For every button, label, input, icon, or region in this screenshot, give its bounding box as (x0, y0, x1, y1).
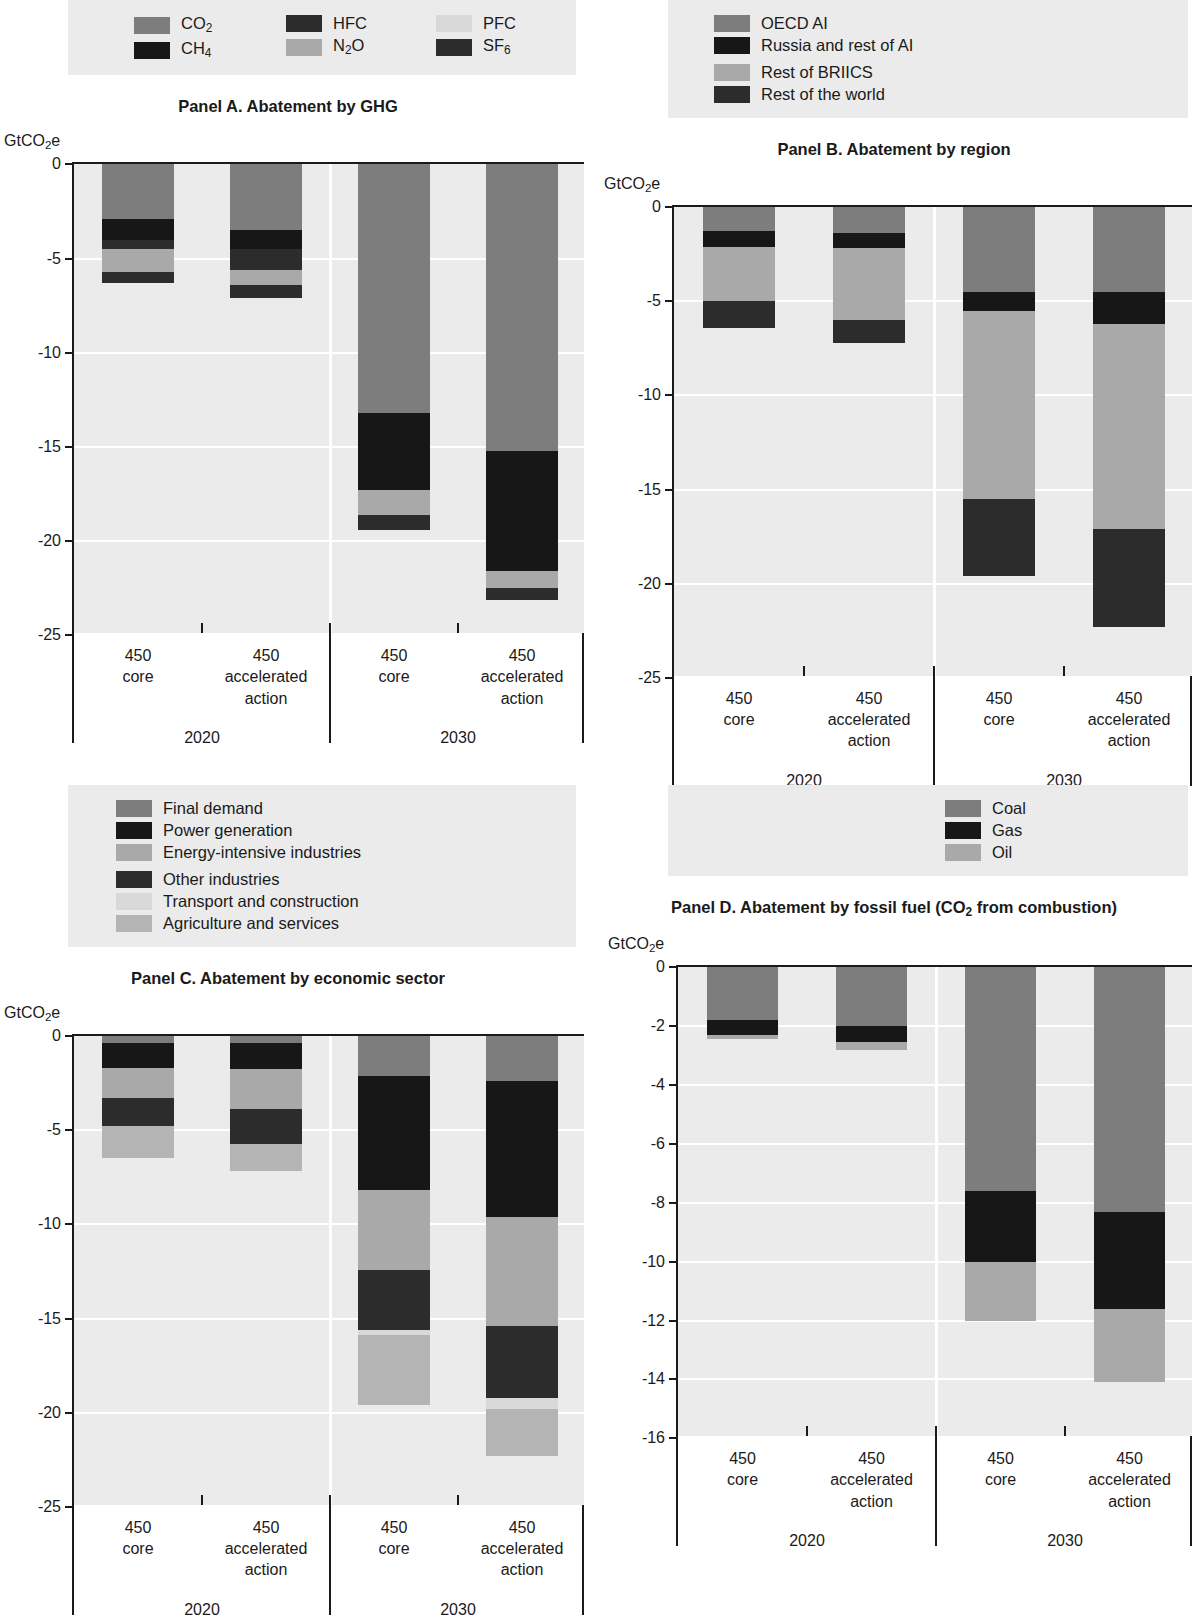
legend-item-other-industries[interactable]: Other industries (116, 871, 362, 888)
x-axis-category-label: 450acceleratedaction (1064, 688, 1194, 751)
y-axis-tick-label: -15 (638, 481, 661, 499)
legend-item-coal[interactable]: Coal (945, 800, 1195, 817)
legend-item-gas[interactable]: Gas (945, 822, 1195, 839)
y-axis-unit-label: GtCO2e (604, 175, 660, 194)
legend-item-co2[interactable]: CO2 (134, 15, 286, 35)
bar-segment (230, 1043, 301, 1069)
y-axis-tick (665, 583, 674, 585)
legend-swatch-icon (714, 86, 750, 103)
x-axis-category-label: 450acceleratedaction (202, 645, 330, 708)
legend-item-energy-intensive-industries[interactable]: Energy-intensive industries (116, 844, 378, 861)
bar-stack[interactable] (1094, 967, 1166, 1438)
y-axis-tick (669, 1143, 678, 1145)
legend-swatch-icon (945, 844, 981, 861)
legend-item-transport-and-construction[interactable]: Transport and construction (116, 893, 362, 910)
bar-segment (230, 270, 301, 285)
bar-stack[interactable] (486, 164, 557, 635)
bar-stack[interactable] (358, 164, 429, 635)
bar-stack[interactable] (102, 1036, 173, 1507)
legend-item-final-demand[interactable]: Final demand (116, 800, 378, 817)
legend-swatch-icon (134, 17, 170, 34)
legend-column: CO2CH4 (134, 10, 286, 65)
x-axis-group-label: 2030 (936, 1532, 1194, 1550)
legend-swatch-icon (116, 822, 152, 839)
y-axis-tick (665, 394, 674, 396)
legend-item-n2o[interactable]: N2O (286, 37, 436, 57)
bar-stack[interactable] (707, 967, 779, 1438)
plot-area: 0-5-10-15-20-25 (672, 205, 1192, 676)
x-axis-category-label: 450core (674, 688, 804, 730)
panel-c-title: Panel C. Abatement by economic sector (0, 969, 576, 988)
bar-stack[interactable] (230, 164, 301, 635)
bar-segment (703, 247, 775, 302)
y-axis-tick (65, 1318, 74, 1320)
y-axis-tick-label: -5 (47, 1121, 61, 1139)
bar-stack[interactable] (230, 1036, 301, 1507)
bar-segment (833, 320, 905, 343)
y-axis-tick-label: -2 (651, 1017, 665, 1035)
legend-swatch-icon (714, 15, 750, 32)
legend-item-hfc[interactable]: HFC (286, 15, 436, 32)
legend-swatch-icon (116, 871, 152, 888)
legend-item-pfc[interactable]: PFC (436, 15, 556, 32)
bar-segment (486, 164, 557, 450)
legend-label: Agriculture and services (163, 915, 339, 932)
legend-item-power-generation[interactable]: Power generation (116, 822, 378, 839)
bar-segment (486, 1326, 557, 1398)
bar-stack[interactable] (963, 207, 1035, 678)
legend-item-oil[interactable]: Oil (945, 844, 1195, 861)
x-axis-category-label: 450core (936, 1448, 1065, 1490)
legend-item-rest-of-briics[interactable]: Rest of BRIICS (714, 64, 959, 81)
bar-stack[interactable] (486, 1036, 557, 1507)
bar-segment (833, 207, 905, 233)
bar-stack[interactable] (358, 1036, 429, 1507)
y-axis-tick-label: -10 (638, 386, 661, 404)
panel-c-chart: GtCO2e0-5-10-15-20-25450core450accelerat… (0, 1004, 598, 1619)
x-axis-group-label: 2030 (330, 1601, 586, 1619)
legend-label: CO2 (181, 15, 212, 35)
bar-segment (230, 1069, 301, 1109)
y-axis-tick (65, 163, 74, 165)
bar-stack[interactable] (1093, 207, 1165, 678)
bar-segment (833, 233, 905, 248)
legend-item-sf6[interactable]: SF6 (436, 37, 556, 57)
bar-segment (1093, 529, 1165, 627)
bar-stack[interactable] (102, 164, 173, 635)
y-axis-tick (669, 966, 678, 968)
y-axis-tick-label: -20 (638, 575, 661, 593)
period-divider (329, 164, 332, 633)
legend-item-agriculture-and-services[interactable]: Agriculture and services (116, 915, 362, 932)
legend-label: Energy-intensive industries (163, 844, 361, 861)
bar-stack[interactable] (703, 207, 775, 678)
bar-stack[interactable] (965, 967, 1037, 1438)
bar-segment (230, 1036, 301, 1043)
legend-item-oecd-ai[interactable]: OECD AI (714, 15, 949, 32)
x-axis-category-label: 450core (74, 1517, 202, 1559)
legend-swatch-icon (116, 893, 152, 910)
bar-segment (102, 219, 173, 240)
bar-segment (836, 1026, 908, 1042)
y-axis-tick (669, 1084, 678, 1086)
y-axis-tick-label: -25 (38, 626, 61, 644)
bar-segment (965, 1191, 1037, 1262)
plot-area: 0-2-4-6-8-10-12-14-16 (676, 965, 1192, 1436)
bar-stack[interactable] (836, 967, 908, 1438)
bar-segment (358, 1036, 429, 1076)
legend-item-rest-of-the-world[interactable]: Rest of the world (714, 86, 959, 103)
y-axis-tick-label: 0 (656, 958, 665, 976)
x-axis-group-label: 2020 (74, 729, 330, 747)
y-axis-tick-label: -10 (642, 1253, 665, 1271)
legend-column: Other industriesTransport and constructi… (116, 866, 362, 937)
panel-a-chart: GtCO2e0-5-10-15-20-25450core450accelerat… (0, 132, 598, 753)
bar-segment (1094, 1212, 1166, 1309)
bar-segment (358, 515, 429, 530)
bar-stack[interactable] (833, 207, 905, 678)
y-axis-tick (65, 540, 74, 542)
panel-d-chart: GtCO2e0-2-4-6-8-10-12-14-16450core450acc… (600, 935, 1198, 1556)
legend-item-russia-and-rest-of-ai[interactable]: Russia and rest of AI (714, 37, 949, 54)
y-axis-tick (669, 1378, 678, 1380)
bar-segment (102, 1068, 173, 1098)
panel-a-panel: CO2CH4HFCN2OPFCSF6Panel A. Abatement by … (0, 0, 598, 753)
legend-item-ch4[interactable]: CH4 (134, 40, 286, 60)
y-axis-tick (669, 1025, 678, 1027)
